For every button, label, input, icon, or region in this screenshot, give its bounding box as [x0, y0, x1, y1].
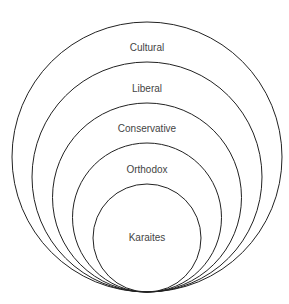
label-conservative: Conservative — [118, 123, 177, 134]
label-liberal: Liberal — [132, 83, 162, 94]
label-orthodox: Orthodox — [126, 164, 167, 175]
label-cultural: Cultural — [130, 42, 164, 53]
circle-liberal — [32, 62, 262, 292]
label-karaites: Karaites — [129, 232, 166, 243]
nested-circles-diagram: CulturalLiberalConservativeOrthodoxKarai… — [0, 0, 289, 304]
